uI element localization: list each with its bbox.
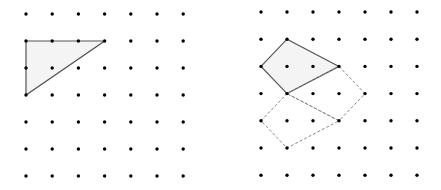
grid-dot: [259, 174, 262, 177]
grid-dot: [415, 92, 418, 95]
grid-dot: [77, 93, 80, 96]
grid-dot: [103, 147, 106, 150]
grid-dot: [155, 93, 158, 96]
grid-dot: [24, 66, 27, 69]
dot-grid-diagram: [0, 0, 441, 190]
grid-dot: [389, 119, 392, 122]
grid-dot: [103, 120, 106, 123]
grid-dot: [24, 12, 27, 15]
grid-dot: [24, 147, 27, 150]
grid-dot: [155, 120, 158, 123]
grid-dot: [77, 147, 80, 150]
grid-dot: [77, 174, 80, 177]
grid-dot: [182, 120, 185, 123]
grid-dot: [363, 174, 366, 177]
grid-dot: [182, 66, 185, 69]
grid-dot: [415, 65, 418, 68]
grid-dot: [337, 65, 340, 68]
grid-dot: [337, 10, 340, 13]
grid-dot: [77, 12, 80, 15]
grid-dot: [311, 92, 314, 95]
grid-dot: [24, 93, 27, 96]
grid-dot: [259, 146, 262, 149]
grid-dot: [51, 93, 54, 96]
grid-dot: [129, 12, 132, 15]
grid-dot: [259, 119, 262, 122]
grid-dot: [77, 39, 80, 42]
grid-dot: [129, 174, 132, 177]
grid-dot: [77, 120, 80, 123]
rotated-copy-2-polygon: [261, 94, 339, 148]
grid-dot: [259, 65, 262, 68]
grid-dot: [51, 174, 54, 177]
grid-dot: [415, 146, 418, 149]
grid-dot: [415, 174, 418, 177]
grid-dot: [389, 65, 392, 68]
grid-dot: [389, 174, 392, 177]
grid-dot: [285, 38, 288, 41]
grid-dot: [337, 119, 340, 122]
grid-dot: [155, 39, 158, 42]
grid-dot: [363, 38, 366, 41]
grid-dot: [285, 174, 288, 177]
grid-dot: [259, 92, 262, 95]
grid-dot: [311, 146, 314, 149]
grid-dot: [415, 10, 418, 13]
grid-dot: [389, 10, 392, 13]
grid-dot: [155, 12, 158, 15]
grid-dot: [51, 66, 54, 69]
grid-dot: [182, 93, 185, 96]
grid-dot: [363, 119, 366, 122]
grid-dot: [182, 147, 185, 150]
grid-dot: [363, 65, 366, 68]
grid-dot: [285, 65, 288, 68]
grid-dot: [155, 66, 158, 69]
grid-dot: [182, 39, 185, 42]
grid-dot: [415, 38, 418, 41]
grid-dot: [389, 38, 392, 41]
grid-dot: [285, 92, 288, 95]
grid-dot: [103, 66, 106, 69]
grid-dot: [182, 174, 185, 177]
grid-dot: [285, 10, 288, 13]
grid-dot: [363, 10, 366, 13]
grid-dot: [285, 119, 288, 122]
grid-dot: [155, 147, 158, 150]
grid-dot: [129, 93, 132, 96]
grid-dot: [51, 147, 54, 150]
grid-dot: [129, 147, 132, 150]
grid-dot: [259, 10, 262, 13]
right-grid: [259, 10, 418, 177]
grid-dot: [103, 12, 106, 15]
grid-dot: [389, 92, 392, 95]
grid-dot: [311, 174, 314, 177]
grid-dot: [103, 39, 106, 42]
grid-dot: [311, 38, 314, 41]
grid-dot: [103, 174, 106, 177]
quadrilateral-polygon: [261, 39, 339, 93]
grid-dot: [51, 39, 54, 42]
grid-dot: [389, 146, 392, 149]
grid-dot: [363, 92, 366, 95]
grid-dot: [155, 174, 158, 177]
grid-dot: [337, 38, 340, 41]
grid-dot: [51, 120, 54, 123]
grid-dot: [24, 120, 27, 123]
grid-dot: [337, 92, 340, 95]
grid-dot: [337, 146, 340, 149]
grid-dot: [337, 174, 340, 177]
left-grid: [24, 12, 185, 177]
grid-dot: [311, 10, 314, 13]
grid-dot: [311, 119, 314, 122]
grid-dot: [103, 93, 106, 96]
grid-dot: [285, 146, 288, 149]
grid-dot: [129, 66, 132, 69]
grid-dot: [182, 12, 185, 15]
grid-dot: [311, 65, 314, 68]
grid-dot: [24, 39, 27, 42]
grid-dot: [363, 146, 366, 149]
grid-dot: [51, 12, 54, 15]
grid-dot: [24, 174, 27, 177]
grid-dot: [129, 120, 132, 123]
grid-dot: [259, 38, 262, 41]
